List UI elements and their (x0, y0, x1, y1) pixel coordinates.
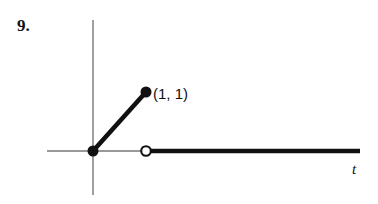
origin-point-marker (88, 146, 99, 157)
figure-container: 9. (1, 1) t (0, 0, 378, 204)
closed-endpoint-marker (141, 87, 152, 98)
piecewise-function-graph: (1, 1) t (0, 0, 378, 204)
rising-segment (93, 92, 146, 151)
point-coordinate-label: (1, 1) (153, 85, 188, 102)
t-axis-label: t (352, 161, 357, 177)
open-endpoint-marker (141, 146, 151, 156)
